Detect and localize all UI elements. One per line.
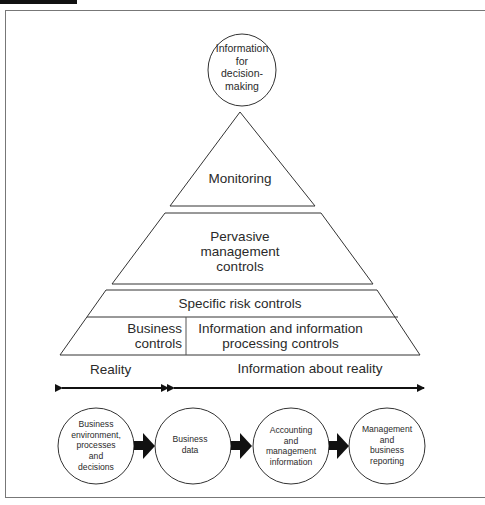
pervasive-label: Pervasive management controls bbox=[180, 229, 300, 274]
text-line: Pervasive bbox=[180, 229, 300, 244]
monitoring-triangle bbox=[170, 112, 315, 206]
text-line: and bbox=[351, 435, 423, 446]
text-line: management bbox=[180, 244, 300, 259]
flow-node-3-label: Accounting and management information bbox=[255, 425, 327, 468]
monitoring-label: Monitoring bbox=[190, 171, 290, 187]
flow-node-2-label: Business data bbox=[160, 434, 220, 455]
text-line: for bbox=[208, 55, 276, 68]
text-line: Information and information bbox=[188, 321, 373, 336]
flow-node-4-label: Management and business reporting bbox=[351, 424, 423, 467]
text-line: Information bbox=[208, 42, 276, 55]
information-about-reality-label: Information about reality bbox=[220, 361, 400, 377]
text-line: controls bbox=[180, 259, 300, 274]
text-line: management bbox=[255, 446, 327, 457]
text-line: business bbox=[351, 445, 423, 456]
specific-risk-label: Specific risk controls bbox=[150, 296, 330, 312]
reality-label: Reality bbox=[90, 362, 150, 378]
text-line: Business bbox=[160, 434, 220, 445]
text-line: Monitoring bbox=[190, 171, 290, 187]
text-line: Specific risk controls bbox=[150, 296, 330, 312]
text-line: processes bbox=[60, 440, 132, 451]
text-line: and bbox=[255, 436, 327, 447]
text-line: Management bbox=[351, 424, 423, 435]
text-line: and bbox=[60, 451, 132, 462]
text-line: controls bbox=[118, 336, 182, 351]
text-line: Accounting bbox=[255, 425, 327, 436]
text-line: Business bbox=[118, 321, 182, 336]
top-circle-label: Information for decision- making bbox=[208, 42, 276, 92]
text-line: decision- bbox=[208, 67, 276, 80]
info-processing-label: Information and information processing c… bbox=[188, 321, 373, 351]
flow-node-1-label: Business environment, processes and deci… bbox=[60, 419, 132, 473]
text-line: environment, bbox=[60, 430, 132, 441]
flow-arrow-2 bbox=[231, 433, 252, 459]
business-controls-label: Business controls bbox=[118, 321, 182, 351]
text-line: processing controls bbox=[188, 336, 373, 351]
text-line: reporting bbox=[351, 456, 423, 467]
flow-arrow-1 bbox=[134, 433, 155, 459]
text-line: decisions bbox=[60, 462, 132, 473]
flow-arrow-3 bbox=[329, 433, 349, 459]
text-line: information bbox=[255, 457, 327, 468]
text-line: data bbox=[160, 445, 220, 456]
text-line: making bbox=[208, 80, 276, 93]
text-line: Business bbox=[60, 419, 132, 430]
